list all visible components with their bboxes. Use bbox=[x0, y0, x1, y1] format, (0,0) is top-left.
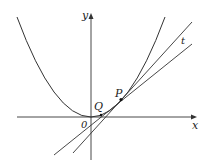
y-axis bbox=[89, 13, 94, 160]
point-q-label: Q bbox=[94, 100, 103, 113]
x-axis-label: x bbox=[192, 119, 199, 132]
tangent-label: t bbox=[181, 35, 186, 46]
origin-label: 0 bbox=[81, 119, 88, 130]
diagram-canvas: y x 0 P Q t bbox=[0, 0, 205, 165]
y-axis-arrow-icon bbox=[89, 13, 94, 19]
point-p-label: P bbox=[114, 87, 123, 100]
point-q-marker bbox=[100, 114, 102, 116]
secant-line-qp bbox=[54, 44, 192, 155]
y-axis-label: y bbox=[81, 9, 89, 22]
